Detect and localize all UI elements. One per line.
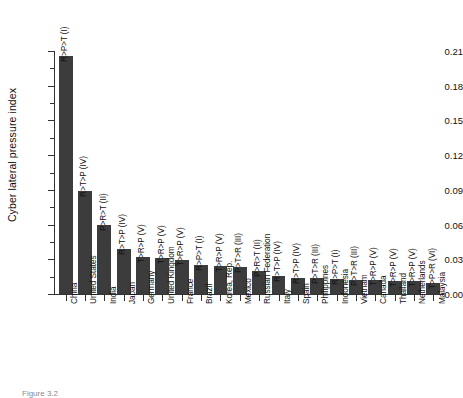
bar-annotation: R>T>P (IV) xyxy=(272,241,282,282)
x-axis-category-label: Italy xyxy=(282,289,292,304)
y-axis-line xyxy=(54,51,55,295)
x-axis-category-label: Philippines xyxy=(320,265,330,304)
bar xyxy=(97,225,111,294)
x-axis-tick xyxy=(395,295,396,301)
y-axis-tick-label: 0.18 xyxy=(417,81,463,92)
bar-annotation: P>R>T (II) xyxy=(252,239,262,277)
bar-annotation: P>R>T (II) xyxy=(98,193,108,231)
bar-annotation: R>P>T (I) xyxy=(59,26,69,61)
y-axis-tick-label: 0.06 xyxy=(417,220,463,231)
y-axis-tick xyxy=(48,225,54,226)
bar-annotation: T>R>P (V) xyxy=(136,224,146,263)
x-axis-category-label: Spain xyxy=(301,283,311,304)
bar-annotation: P>T>R (III) xyxy=(233,233,243,273)
y-axis-tick xyxy=(48,294,54,295)
bar-annotation: R>P>T (I) xyxy=(194,236,204,271)
x-axis-category-label: Russian Federation xyxy=(262,234,272,304)
y-axis-tick-label: 0.09 xyxy=(417,185,463,196)
y-axis-minor-tick xyxy=(50,242,54,243)
y-axis-minor-tick xyxy=(50,138,54,139)
x-axis-category-label: United Kingdom xyxy=(166,246,176,304)
y-axis-minor-tick xyxy=(50,207,54,208)
x-axis-category-label: Thailand xyxy=(398,273,408,304)
x-axis-category-label: China xyxy=(69,283,79,304)
x-axis-tick xyxy=(279,295,280,301)
y-axis-tick-label: 0.21 xyxy=(417,46,463,57)
bar-annotation: P>T>R (III) xyxy=(349,246,359,286)
x-axis-tick xyxy=(298,295,299,301)
y-axis-minor-tick xyxy=(50,173,54,174)
bar-annotation: T>R>P (V) xyxy=(368,248,378,287)
y-axis-minor-tick xyxy=(50,68,54,69)
x-axis-category-label: United States xyxy=(88,255,98,304)
plot-area: 0.000.030.060.090.120.150.180.21 R>P>T (… xyxy=(0,0,463,398)
bar-annotation: T>R>P (V) xyxy=(388,248,398,287)
x-axis-tick xyxy=(259,295,260,301)
x-axis-category-label: Indonesia xyxy=(340,269,350,304)
y-axis-tick-label: 0.15 xyxy=(417,115,463,126)
x-axis-category-label: India xyxy=(108,287,118,305)
x-axis-category-label: Germany xyxy=(146,271,156,304)
bar xyxy=(59,56,73,294)
bar-annotation: R>P>T (I) xyxy=(330,250,340,285)
bar-annotation: T>R>P (V) xyxy=(407,249,417,288)
figure-caption: Figure 3.2 xyxy=(22,389,58,398)
y-axis-minor-tick xyxy=(50,103,54,104)
y-axis-tick-label: 0.12 xyxy=(417,150,463,161)
bar-annotation: T>R>P (V) xyxy=(175,228,185,267)
y-axis-minor-tick xyxy=(50,277,54,278)
y-axis-tick xyxy=(48,190,54,191)
x-axis-tick xyxy=(182,295,183,301)
x-axis-tick xyxy=(124,295,125,301)
figure-container: Cyber lateral pressure index 0.000.030.0… xyxy=(0,0,463,398)
bar-annotation: T>P>R (VI) xyxy=(427,248,437,289)
x-axis-tick xyxy=(66,295,67,301)
x-axis-category-label: Brazil xyxy=(204,284,214,304)
y-axis-tick xyxy=(48,120,54,121)
x-axis-category-label: Netherlands xyxy=(417,260,427,304)
bar-annotation: T>R>P (V) xyxy=(156,226,166,265)
bar-annotation: T>R>P (V) xyxy=(214,234,224,273)
bar-annotation: P>T>R (III) xyxy=(310,244,320,284)
x-axis-tick xyxy=(143,295,144,301)
x-axis-tick xyxy=(317,295,318,301)
y-axis-tick xyxy=(48,155,54,156)
x-axis-tick xyxy=(356,295,357,301)
x-axis-category-label: France xyxy=(185,279,195,304)
x-axis-tick xyxy=(375,295,376,301)
bar-annotation: R>T>P (IV) xyxy=(117,214,127,255)
x-axis-category-label: Mexico xyxy=(243,278,253,304)
x-axis-category-label: Canada xyxy=(378,276,388,304)
bar-annotation: R>T>P (IV) xyxy=(291,243,301,284)
x-axis-category-label: Japan xyxy=(127,282,137,304)
y-axis-tick xyxy=(48,86,54,87)
x-axis-category-label: Vietnam xyxy=(359,274,369,304)
x-axis-category-label: Malaysia xyxy=(437,272,447,304)
x-axis-tick xyxy=(220,295,221,301)
y-axis-tick xyxy=(48,51,54,52)
x-axis-tick xyxy=(104,295,105,301)
x-axis-tick xyxy=(240,295,241,301)
bar-annotation: R>T>P (IV) xyxy=(78,156,88,197)
x-axis-tick xyxy=(162,295,163,301)
x-axis-tick xyxy=(201,295,202,301)
x-axis-tick xyxy=(85,295,86,301)
y-axis-tick xyxy=(48,259,54,260)
x-axis-tick xyxy=(414,295,415,301)
x-axis-tick xyxy=(337,295,338,301)
x-axis-tick xyxy=(433,295,434,301)
x-axis-category-label: Korea, Rep. xyxy=(224,261,234,304)
